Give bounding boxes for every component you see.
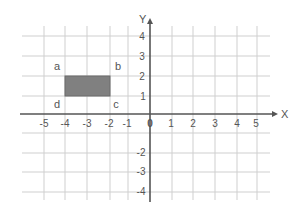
corner-label-c: c: [113, 98, 119, 110]
x-tick: 4: [234, 118, 240, 129]
x-axis-arrow-icon: [272, 111, 278, 117]
y-tick: -3: [137, 166, 146, 177]
x-tick: 2: [190, 118, 196, 129]
y-tick: 3: [139, 51, 145, 62]
y-tick: -2: [137, 147, 146, 158]
x-tick: -4: [61, 118, 70, 129]
x-tick: -5: [40, 118, 49, 129]
x-tick: 1: [168, 118, 174, 129]
shaded-rectangle: [65, 76, 110, 96]
y-axis-label: Y: [139, 13, 147, 25]
y-axis-arrow-icon: [147, 18, 153, 24]
y-tick: 4: [139, 31, 145, 42]
origin-label: 0: [147, 118, 153, 129]
corner-label-a: a: [54, 60, 61, 72]
x-tick: -3: [83, 118, 92, 129]
x-tick: -1: [123, 118, 132, 129]
coordinate-plane: X Y -5 -4 -3 -2 -1 0 1 2 3 4 5 4 3 2 1 -…: [0, 0, 304, 212]
x-tick: 5: [253, 118, 259, 129]
y-tick: -4: [137, 186, 146, 197]
y-tick: 2: [139, 71, 145, 82]
x-tick: -2: [105, 118, 114, 129]
x-axis-label: X: [281, 108, 289, 120]
grid-lines: [22, 26, 270, 200]
corner-label-d: d: [54, 98, 60, 110]
corner-label-b: b: [115, 60, 121, 72]
y-tick: 1: [140, 91, 146, 102]
x-tick: 3: [212, 118, 218, 129]
